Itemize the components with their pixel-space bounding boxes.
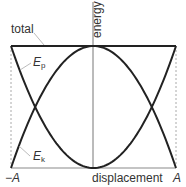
x-tick-pos-a: A xyxy=(172,171,181,185)
ep-label-sub: p xyxy=(41,61,46,70)
x-tick-neg-a: −A xyxy=(5,171,20,185)
ek-leader-line xyxy=(19,146,30,156)
total-leader-line xyxy=(34,33,44,45)
ek-label-sub: k xyxy=(41,155,46,164)
x-axis-label: displacement xyxy=(92,171,163,185)
total-label: total xyxy=(11,22,34,36)
ep-label: Ep xyxy=(33,55,46,70)
ek-label: Ek xyxy=(33,149,46,164)
ep-leader-line xyxy=(20,63,31,70)
energy-displacement-chart: total Ep Ek energy displacement −A A xyxy=(0,0,186,187)
y-axis-label: energy xyxy=(90,1,104,38)
